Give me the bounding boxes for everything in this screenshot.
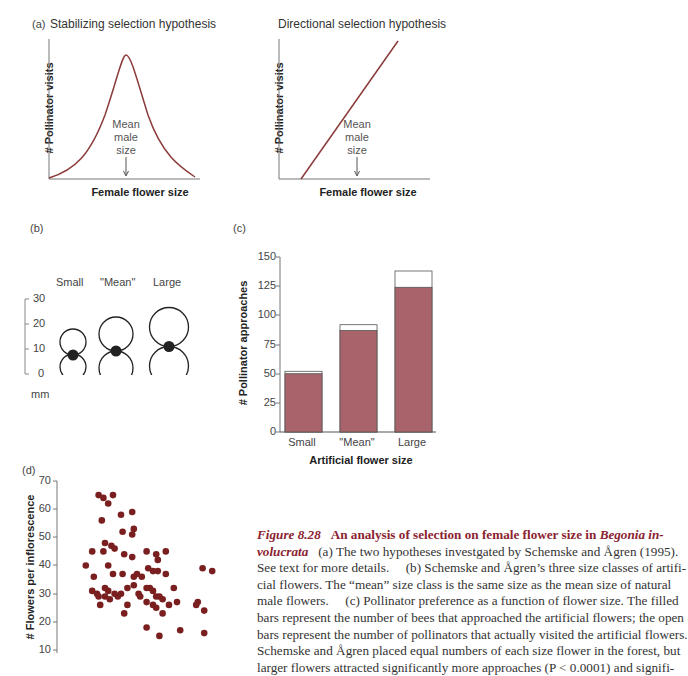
scatter-point — [166, 602, 173, 609]
scatter-point — [129, 531, 136, 538]
scatter-point — [131, 582, 138, 589]
bell-curve — [49, 55, 195, 178]
scatter-point — [201, 607, 208, 614]
stabilizing-annotation: Mean male size — [106, 118, 146, 157]
scatter-point — [155, 557, 162, 564]
scatter-ytick-30: 30 — [33, 587, 51, 599]
xtick-large: Large — [390, 436, 434, 448]
scatter-point — [129, 509, 136, 516]
scatter-point — [131, 526, 138, 533]
scatter-point — [124, 585, 131, 592]
scatter-point — [209, 568, 216, 575]
scatter-point — [201, 630, 208, 637]
scatter-point — [110, 571, 117, 578]
scatter-dots — [83, 492, 216, 639]
caption-heading: An analysis of selection on female flowe… — [331, 527, 597, 542]
bar-chart — [276, 250, 436, 440]
ytick-0: 0 — [252, 425, 276, 437]
caption-line-7: Schemske and Ågren placed equal numbers … — [257, 643, 647, 660]
scatter-point — [110, 492, 117, 499]
scatter-point — [159, 610, 166, 617]
scatter-point — [121, 551, 128, 558]
scatter-point — [171, 585, 178, 592]
scatter-point — [100, 495, 107, 502]
xtick-small: Small — [280, 436, 324, 448]
scale-tick-20: 20 — [33, 317, 45, 329]
ytick-100: 100 — [252, 308, 276, 320]
scatter-point — [177, 627, 184, 634]
panel-a-label: (a) — [32, 18, 45, 30]
flower-size-diagram — [0, 295, 200, 375]
caption-figure-number: Figure 8.28 — [257, 527, 321, 542]
column-small-label: Small — [56, 276, 84, 288]
caption-species-2: volucrata — [257, 544, 308, 559]
bar-small — [285, 371, 322, 432]
caption-line-1: (a) The two hypotheses investgated by Sc… — [318, 544, 678, 559]
scatter-point — [174, 599, 181, 606]
scatter-point — [99, 517, 106, 524]
scatter-point — [89, 548, 96, 555]
ytick-75: 75 — [252, 338, 276, 350]
scatter-point — [156, 633, 163, 640]
column-mean-label: "Mean" — [100, 276, 135, 288]
bar-large — [395, 271, 432, 432]
caption-line-2: See text for more details. (b) Schemske … — [257, 560, 647, 577]
scatter-point — [199, 565, 206, 572]
directional-title: Directional selection hypothesis — [278, 17, 446, 31]
scatter-point — [91, 574, 98, 581]
scatter-point — [150, 588, 157, 595]
caption-line-6: bars represent the number of pollinators… — [257, 627, 647, 644]
scatter-point — [159, 596, 166, 603]
scatter-point — [143, 548, 150, 555]
stabilizing-title: Stabilizing selection hypothesis — [50, 17, 216, 31]
scatter-point — [121, 610, 128, 617]
ytick-25: 25 — [252, 396, 276, 408]
scatter-point — [102, 540, 109, 547]
caption-line-4: male flowers. (c) Pollinator preference … — [257, 593, 647, 610]
scatter-ytick-20: 20 — [33, 615, 51, 627]
scale-unit: mm — [31, 388, 49, 400]
scale-tick-30: 30 — [33, 292, 45, 304]
scatter-point — [105, 562, 112, 569]
directional-xlabel: Female flower size — [308, 186, 428, 198]
scatter-point — [129, 554, 136, 561]
ytick-125: 125 — [252, 279, 276, 291]
scatter-point — [83, 562, 90, 569]
bar-mean — [340, 325, 377, 432]
scatter-point — [163, 571, 170, 578]
scatter-point — [105, 588, 112, 595]
scatter-point — [124, 602, 131, 609]
figure-caption: Figure 8.28 An analysis of selection on … — [257, 527, 647, 676]
scatter-point — [105, 500, 112, 507]
scatter-ytick-40: 40 — [33, 558, 51, 570]
scatter-point — [95, 593, 102, 600]
small-flower-icon — [60, 329, 86, 375]
scatter-point — [153, 605, 160, 612]
scatter-ytick-50: 50 — [33, 530, 51, 542]
scatter-point — [100, 548, 107, 555]
caption-line-5: bars represent the number of bees that a… — [257, 610, 647, 627]
scatter-ytick-70: 70 — [33, 474, 51, 486]
scatter-point — [115, 593, 122, 600]
scatter-point — [97, 602, 104, 609]
scatter-point — [107, 596, 114, 603]
scatter-point — [139, 574, 146, 581]
scatter-point — [163, 548, 170, 555]
large-flower-icon — [150, 308, 189, 376]
directional-line — [301, 41, 398, 179]
caption-line-8: larger flowers attracted significantly m… — [257, 660, 647, 676]
scatter-point — [137, 593, 144, 600]
scatter-point — [111, 545, 118, 552]
column-large-label: Large — [153, 276, 181, 288]
scatter-point — [118, 512, 125, 519]
panel-c-label: (c) — [233, 222, 246, 234]
panel-b-label: (b) — [30, 222, 43, 234]
scatter-point — [195, 599, 202, 606]
scatter-point — [143, 624, 150, 631]
directional-annotation: Mean male size — [337, 118, 377, 157]
scatter-point — [143, 599, 150, 606]
bar-xlabel: Artificial flower size — [296, 454, 426, 466]
bar-ylabel-wrap: # Pollinator approaches — [233, 255, 253, 435]
caption-species-1: Begonia in- — [600, 527, 664, 542]
directional-line-plot — [275, 35, 435, 185]
